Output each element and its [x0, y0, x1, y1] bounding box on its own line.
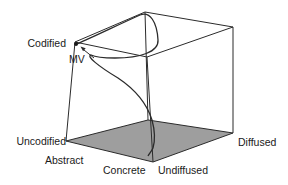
label-diffused: Diffused — [238, 136, 276, 148]
ispace-diagram: Codified MV Uncodified Abstract Concrete… — [0, 0, 288, 185]
label-concrete: Concrete — [103, 164, 146, 176]
label-undiffused: Undiffused — [158, 164, 208, 176]
label-mv: MV — [69, 53, 85, 65]
floor-shading — [66, 120, 233, 162]
mv-dot — [74, 42, 78, 46]
label-codified: Codified — [27, 37, 66, 49]
label-uncodified: Uncodified — [16, 135, 66, 147]
label-abstract: Abstract — [45, 154, 84, 166]
cube-figure — [0, 0, 288, 185]
